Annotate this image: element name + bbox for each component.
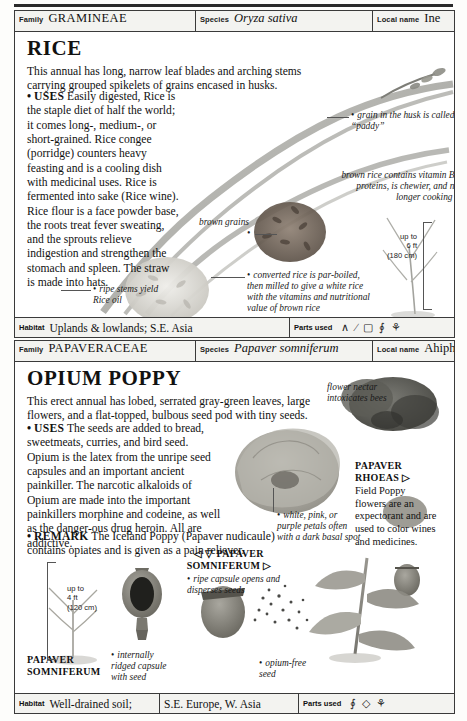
poppy-family-key: Family	[19, 345, 43, 354]
poppy-species-value: Papaver somniferum	[234, 341, 339, 356]
poppy-plate-top-marker-left: ◁ ▽	[194, 548, 213, 559]
poppy-parts-icons: ∮ ◇ ⚘	[350, 698, 386, 709]
entry-panel-rice: Family GRAMINEAE Species Oryza sativa Lo…	[14, 10, 455, 338]
poppy-habitat-region-cell: S.E. Europe, W. Asia	[159, 694, 298, 713]
poppy-scale-caption: up to 4 ft (120 cm)	[67, 584, 117, 612]
rice-species-cell: Species Oryza sativa	[195, 11, 372, 31]
poppy-rhoeas-title-line1: PAPAVER	[355, 460, 402, 471]
poppy-habitat-cell: Habitat Well-drained soil;	[15, 694, 159, 713]
stem-icon: ∕	[355, 322, 357, 333]
poppy-callout-internally-ridged: internally ridged capsule with seed	[111, 650, 169, 683]
poppy-habitat-key: Habitat	[19, 699, 44, 708]
grain-pair-icon: ∮	[379, 322, 385, 333]
latex-drop-icon: ◇	[362, 698, 370, 709]
poppy-flower-center	[235, 429, 340, 514]
poppy-scale-line3: (120 cm)	[67, 603, 117, 612]
rice-uses-text: Easily digested, Rice is the staple diet…	[27, 90, 179, 289]
rice-family-key: Family	[19, 15, 43, 24]
poppy-callout-nectar: flower nectar intoxicates bees	[327, 382, 397, 404]
top-rule	[14, 4, 453, 7]
rice-callout-brown-grains-dot: •	[247, 228, 250, 239]
poppy-remark-lead: REMARK	[34, 530, 89, 543]
poppy-plate-top-line1: PAPAVER	[217, 548, 264, 559]
rice-habitat-key: Habitat	[19, 323, 44, 332]
poppy-local-value: Ahiphenalm	[424, 341, 454, 356]
rice-leader-brown-grains	[255, 234, 277, 235]
poppy-parts-cell: Parts used ∮ ◇ ⚘	[298, 694, 454, 713]
rice-family-value: GRAMINEAE	[48, 11, 127, 26]
rice-local-cell: Local name Ine	[372, 11, 454, 31]
poppy-plate-label-bottom: PAPAVER SOMNIFERUM	[27, 654, 119, 678]
poppy-callout-petals: white, pink, or purple petals often with…	[277, 510, 361, 543]
rice-uses-paragraph: • USES Easily digested, Rice is the stap…	[27, 90, 179, 290]
poppy-local-cell: Local name Ahiphenalm	[372, 341, 454, 361]
rice-scale-line3: (180 cm)	[365, 251, 417, 260]
rice-leader-paddy	[327, 117, 349, 118]
poppy-scale-line2: 4 ft	[67, 593, 117, 602]
reference-page: Family GRAMINEAE Species Oryza sativa Lo…	[0, 0, 467, 721]
poppy-leader-petals	[273, 488, 274, 512]
rice-scale-bracket	[423, 222, 432, 310]
rice-habitat-cell: Habitat Uplands & lowlands; S.E. Asia	[15, 318, 289, 337]
flower-cluster-icon: ⚘	[376, 698, 386, 709]
poppy-plate-label-top: ◁ ▽ PAPAVER SOMNIFERUM ▷	[167, 548, 291, 572]
poppy-rhoeas-marker: ▷	[402, 472, 410, 483]
rice-habitat-value: Uplands & lowlands; S.E. Asia	[49, 322, 192, 334]
rice-header-strip: Family GRAMINEAE Species Oryza sativa Lo…	[15, 11, 454, 32]
rice-uses-lead: USES	[34, 90, 64, 103]
poppy-parts-key: Parts used	[303, 699, 341, 708]
poppy-family-cell: Family PAPAVERACEAE	[15, 341, 195, 361]
brown-grain-pile	[254, 202, 326, 262]
poppy-plate-top-line2: SOMNIFERUM	[187, 560, 261, 571]
poppy-intro: This erect annual has lobed, serrated gr…	[27, 395, 329, 424]
rice-callout-brown-grains: brown grains	[193, 217, 249, 228]
poppy-family-value: PAPAVERACEAE	[48, 341, 148, 356]
rice-parts-cell: Parts used ∧ ∕ ▢ ∮ ⚘	[289, 318, 454, 337]
rice-scale-caption: up to 6 ft (180 cm)	[365, 232, 417, 260]
rice-scale-line2: 6 ft	[365, 241, 417, 250]
rice-leader-ripe-stems	[61, 290, 91, 291]
rice-scale-line1: up to	[365, 232, 417, 241]
poppy-leafy-plant	[309, 558, 419, 663]
rice-species-key: Species	[200, 15, 229, 24]
poppy-rhoeas-title: PAPAVER RHOEAS ▷	[355, 460, 439, 484]
poppy-callout-opium-free: opium-free seed	[259, 658, 321, 680]
poppy-plate-bottom-line2: SOMNIFERUM	[27, 666, 101, 677]
poppy-rhoeas-title-line2: RHOEAS	[355, 472, 399, 483]
poppy-species-key: Species	[200, 345, 229, 354]
poppy-scale-bracket	[47, 562, 56, 660]
seed-icon: ▢	[363, 322, 373, 333]
poppy-title: OPIUM POPPY	[27, 366, 347, 391]
poppy-capsule-section	[122, 568, 162, 640]
poppy-habitat-region: S.E. Europe, W. Asia	[164, 698, 261, 710]
rice-title: RICE	[27, 36, 327, 61]
seed-pair-icon: ∮	[350, 698, 356, 709]
rice-callout-paddy: grain in the husk is called “paddy”	[351, 110, 454, 132]
poppy-uses-lead: USES	[34, 422, 64, 435]
rice-callout-brown-rice: brown rice contains vitamin B and protei…	[333, 170, 454, 203]
rice-callout-ripe-stems: ripe stems yield Rice oil	[93, 284, 165, 306]
poppy-callout-ripe-capsule: ripe capsule opens and disperses seeds	[187, 574, 309, 596]
poppy-header-strip: Family PAPAVERACEAE Species Papaver somn…	[15, 341, 454, 362]
rice-parts-icons: ∧ ∕ ▢ ∮ ⚘	[341, 322, 401, 333]
poppy-body: OPIUM POPPY This erect annual has lobed,…	[15, 362, 454, 694]
rice-local-key: Local name	[377, 15, 419, 24]
leaf-icon: ∧	[341, 322, 349, 333]
poppy-species-cell: Species Papaver somniferum	[195, 341, 372, 361]
entry-panel-opium-poppy: Family PAPAVERACEAE Species Papaver somn…	[14, 340, 455, 714]
rice-family-cell: Family GRAMINEAE	[15, 11, 195, 31]
poppy-local-key: Local name	[377, 345, 419, 354]
flower-cluster-icon: ⚘	[391, 322, 401, 333]
poppy-scale-line1: up to	[67, 584, 117, 593]
rice-callout-converted-rice: converted rice is par-boiled, then mille…	[247, 270, 371, 314]
poppy-plate-top-marker-right: ▷	[263, 560, 271, 571]
poppy-rhoeas-text: Field Poppy flowers are an expectorant a…	[355, 485, 439, 548]
rice-species-value: Oryza sativa	[234, 11, 298, 26]
rice-parts-key: Parts used	[294, 323, 332, 332]
rice-local-value: Ine	[424, 11, 440, 26]
rice-footer-strip: Habitat Uplands & lowlands; S.E. Asia Pa…	[15, 317, 454, 337]
poppy-footer-strip: Habitat Well-drained soil; S.E. Europe, …	[15, 693, 454, 713]
rice-body: RICE This annual has long, narrow leaf b…	[15, 32, 454, 318]
rice-leader-converted	[211, 277, 245, 278]
poppy-habitat-value: Well-drained soil;	[49, 698, 131, 710]
